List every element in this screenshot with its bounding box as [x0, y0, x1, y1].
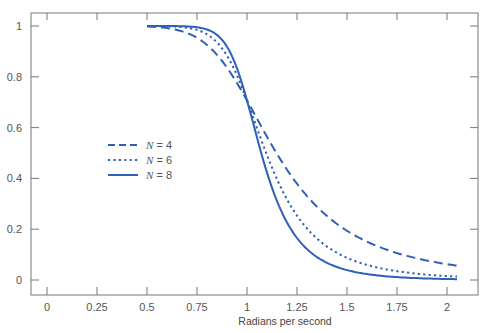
- y-axis-ticks: 00.20.40.60.81: [7, 20, 478, 286]
- butterworth-chart: 00.250.50.7511.251.51.752 00.20.40.60.81…: [0, 0, 488, 333]
- y-tick-label: 0.2: [7, 223, 22, 235]
- x-tick-label: 0.5: [139, 301, 154, 313]
- legend-label: N = 4: [145, 139, 172, 151]
- x-tick-label: 1.25: [286, 301, 307, 313]
- y-tick-label: 0.4: [7, 172, 22, 184]
- curve-dotted: [147, 26, 457, 277]
- x-tick-label: 0: [44, 301, 50, 313]
- plot-frame: [31, 13, 478, 295]
- legend: N = 4N = 6N = 8: [108, 139, 172, 181]
- x-tick-label: 2: [444, 301, 450, 313]
- x-tick-label: 0.25: [86, 301, 107, 313]
- x-tick-label: 1.5: [339, 301, 354, 313]
- y-tick-label: 0.6: [7, 122, 22, 134]
- x-axis-label: Radians per second: [238, 315, 332, 327]
- y-tick-label: 0.8: [7, 71, 22, 83]
- y-tick-label: 1: [16, 20, 22, 32]
- legend-label: N = 6: [145, 154, 172, 166]
- x-axis-ticks: 00.250.50.7511.251.51.752: [44, 13, 450, 313]
- curve-dashed: [147, 27, 457, 266]
- y-tick-label: 0: [16, 274, 22, 286]
- curves: [147, 26, 457, 279]
- x-tick-label: 1.75: [386, 301, 407, 313]
- x-tick-label: 1: [244, 301, 250, 313]
- legend-label: N = 8: [145, 169, 172, 181]
- curve-solid: [147, 26, 457, 279]
- x-tick-label: 0.75: [186, 301, 207, 313]
